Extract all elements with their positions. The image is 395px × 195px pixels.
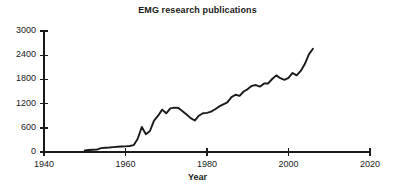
y-tick-label: 0 (0, 146, 36, 156)
y-tick-label: 1800 (0, 73, 36, 83)
x-axis-title: Year (0, 172, 395, 182)
x-tick-label: 2000 (264, 159, 314, 169)
x-tick-label: 1940 (19, 159, 69, 169)
x-tick-label: 1960 (101, 159, 151, 169)
y-tick-label: 1200 (0, 98, 36, 108)
axis-lines (44, 31, 370, 152)
data-series-line (85, 49, 313, 151)
chart-figure: EMG research publications 06001200180024… (0, 0, 395, 195)
x-tick-label: 2020 (345, 159, 395, 169)
y-tick-label: 2400 (0, 49, 36, 59)
y-tick-label: 3000 (0, 25, 36, 35)
x-tick-label: 1980 (182, 159, 232, 169)
y-tick-label: 600 (0, 122, 36, 132)
